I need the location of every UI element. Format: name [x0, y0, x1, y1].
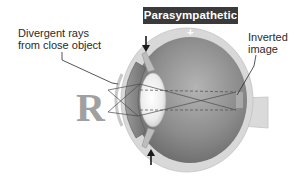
- divergent-label-line1: Divergent rays: [18, 27, 118, 39]
- inverted-label-line1: Inverted: [248, 31, 294, 43]
- inverted-label-line2: image: [248, 43, 294, 55]
- object-letter: R: [76, 85, 106, 130]
- parasympathetic-label: Parasympathetic +: [143, 7, 238, 24]
- inverted-image-label: Inverted image: [248, 31, 294, 55]
- lens: [140, 73, 166, 127]
- divergent-rays-label: Divergent rays from close object: [18, 27, 118, 51]
- divergent-label-line2: from close object: [18, 39, 118, 51]
